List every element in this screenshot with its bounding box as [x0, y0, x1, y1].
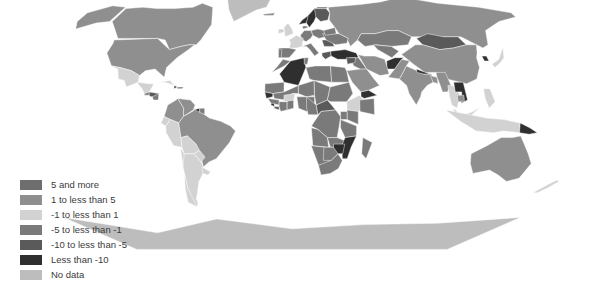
country-region: Uganda — -5 to less than -1 — [341, 112, 348, 120]
legend-item: 1 to less than 5 — [20, 192, 160, 207]
country-region: Portugal — -5 to less than -1 — [278, 48, 281, 58]
legend-item: -1 to less than 1 — [20, 207, 160, 222]
legend-item: Less than -10 — [20, 252, 160, 267]
legend-item: -10 to less than -5 — [20, 237, 160, 252]
legend-swatch — [20, 255, 42, 265]
legend-item: -5 to less than -1 — [20, 222, 160, 237]
country-region: Cambodia — 1 to less than 5 — [457, 95, 464, 102]
country-region: Cote d'Ivoire — -5 to less than -1 — [279, 102, 287, 112]
legend-swatch — [20, 210, 42, 220]
legend-label: -1 to less than 1 — [51, 210, 119, 220]
map-legend: 5 and more1 to less than 5-1 to less tha… — [20, 177, 160, 282]
legend-label: -5 to less than -1 — [51, 225, 122, 235]
legend-swatch — [20, 180, 42, 190]
legend-label: 5 and more — [51, 180, 99, 190]
legend-swatch — [20, 240, 42, 250]
legend-item: No data — [20, 267, 160, 282]
legend-swatch — [20, 225, 42, 235]
legend-label: Less than -10 — [51, 255, 109, 265]
legend-swatch — [20, 195, 42, 205]
choropleth-figure: (Percentage) Canada — 1 to less than 5Un… — [0, 0, 609, 292]
country-region: Ghana — -5 to less than -1 — [287, 100, 294, 110]
legend-label: No data — [51, 270, 84, 280]
legend-item: 5 and more — [20, 177, 160, 192]
legend-label: -10 to less than -5 — [51, 240, 127, 250]
legend-label: 1 to less than 5 — [51, 195, 115, 205]
country-region: Mauritania — -5 to less than -1 — [265, 82, 284, 93]
legend-swatch — [20, 270, 42, 280]
